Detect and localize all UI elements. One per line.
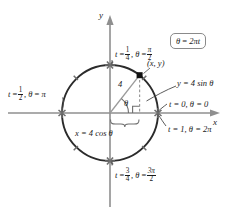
marker-left-t-eq: = [13,89,18,99]
boxed-formula: θ = 2πt [170,33,206,49]
marker-label-right-end: t = 1, θ = 2π [168,125,212,134]
point-coordinate-label: (x, y) [147,59,164,68]
y-axis-label: y [99,11,103,20]
marker-bottom-theta-var: θ [135,170,139,180]
leader-line-t0 [159,104,168,111]
leader-line-point-label [144,68,151,74]
marker-bottom-theta-den: 2 [147,176,156,183]
marker-left-theta-var: θ [28,89,32,99]
marker-left-theta-eq: = [34,89,39,99]
x-axis-arrowhead [210,109,220,116]
marker-bottom-t-var: t [115,170,117,180]
marker-bottom-t-eq: = [120,170,125,180]
marker-top-theta-eq: = [141,49,146,59]
y-component-equation: y = 4 sin θ [177,79,213,88]
x-component-equation: x = 4 cos θ [75,129,113,138]
point-marker [137,72,143,78]
marker-label-right-start: t = 0, θ = 0 [169,100,208,109]
marker-left-theta-value: π [41,89,45,99]
marker-left-t-fraction: 12 [18,87,24,103]
marker-bottom-t-den: 4 [125,176,131,183]
boxed-formula-lhs: θ [176,36,180,46]
marker-top-t-fraction: 14 [125,47,131,63]
marker-label-bottom: t =34, θ =3π2 [115,168,156,184]
leader-line-t1 [159,116,166,127]
boxed-formula-eq: = [182,36,187,46]
parametric-circle-figure: y x θ = 2πt t =14, θ =π2 t =12, θ = π t … [0,0,238,215]
marker-left-t-var: t [8,89,10,99]
x-axis-label: x [213,118,217,127]
marker-bottom-theta-eq: = [141,170,146,180]
marker-label-left: t =12, θ = π [8,87,46,103]
marker-left-t-den: 2 [18,95,24,102]
boxed-formula-rhs: 2πt [189,36,200,46]
marker-top-t-var: t [115,49,117,59]
theta-angle-label: θ [124,99,128,108]
marker-bottom-t-fraction: 34 [125,168,131,184]
axes-group [8,22,213,207]
x-component-brace [111,120,140,128]
y-axis-arrowhead [106,15,113,25]
radius-length-label: 4 [118,80,122,89]
marker-bottom-theta-fraction: 3π2 [147,168,156,184]
marker-top-theta-var: θ [135,49,139,59]
right-angle-marker [133,106,140,113]
marker-top-t-den: 4 [125,55,131,62]
marker-top-t-eq: = [120,49,125,59]
